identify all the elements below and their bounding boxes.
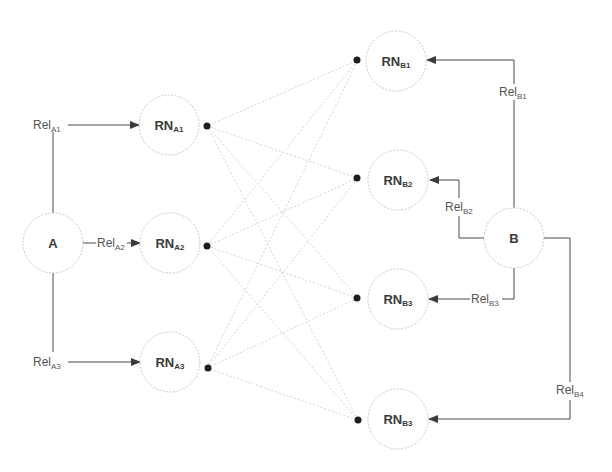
- node-subscript: B3: [402, 419, 413, 428]
- node-subscript: A3: [174, 362, 185, 371]
- node-label: RN: [381, 54, 400, 69]
- node-label: RN: [155, 236, 174, 251]
- node-rn-b2[interactable]: RNB2: [368, 150, 428, 210]
- diagram-canvas: A B RNA1 RNA2 RNA3 RNB1 RNB2 RNB3 RNB3: [0, 0, 612, 472]
- node-subscript: B2: [402, 180, 413, 189]
- rel-b4-path: [544, 238, 570, 382]
- dot-a2[interactable]: [204, 243, 211, 250]
- rel-b4-arrow: [429, 400, 570, 419]
- node-subscript: A2: [174, 243, 185, 252]
- dot-a3[interactable]: [205, 365, 212, 372]
- connection-dots: [204, 57, 362, 424]
- node-rn-b4[interactable]: RNB3: [368, 389, 428, 449]
- node-subscript: B1: [400, 61, 411, 70]
- node-label: RN: [383, 173, 402, 188]
- rel-b2-arrow: [430, 180, 459, 198]
- dot-b3[interactable]: [354, 295, 361, 302]
- node-rn-b1[interactable]: RNB1: [366, 31, 426, 91]
- rel-b1-label: RelB1: [499, 85, 527, 101]
- rel-b4-label: RelB4: [556, 383, 584, 399]
- node-b-label: B: [509, 231, 518, 246]
- node-a[interactable]: A: [23, 213, 83, 273]
- node-rn-a1[interactable]: RNA1: [139, 95, 199, 155]
- node-rn-a3[interactable]: RNA3: [140, 332, 200, 392]
- rel-a2-label: RelA2: [97, 236, 125, 252]
- svg-text:A: A: [48, 236, 58, 251]
- node-rn-b3[interactable]: RNB3: [368, 269, 428, 329]
- node-label: RN: [383, 292, 402, 307]
- node-rn-a2[interactable]: RNA2: [140, 213, 200, 273]
- rel-a3-label: RelA3: [33, 355, 61, 371]
- node-a-label: A: [48, 236, 58, 251]
- rel-b2-path: [459, 216, 484, 238]
- dot-b4[interactable]: [355, 417, 362, 424]
- dot-b1[interactable]: [354, 57, 361, 64]
- rel-a1-label: RelA1: [33, 118, 61, 134]
- node-subscript: A1: [173, 125, 184, 134]
- node-b[interactable]: B: [484, 208, 544, 268]
- rel-b1-path: [427, 60, 514, 84]
- node-label: RN: [155, 355, 174, 370]
- svg-text:B: B: [509, 231, 518, 246]
- dot-a1[interactable]: [204, 123, 211, 130]
- rel-b3-label: RelB3: [471, 292, 499, 308]
- node-label: RN: [383, 412, 402, 427]
- node-subscript: B3: [402, 299, 413, 308]
- rel-b3-path: [502, 268, 514, 299]
- link-mesh: [207, 60, 358, 420]
- rel-b2-label: RelB2: [445, 200, 473, 216]
- node-label: RN: [154, 118, 173, 133]
- dot-b2[interactable]: [354, 175, 361, 182]
